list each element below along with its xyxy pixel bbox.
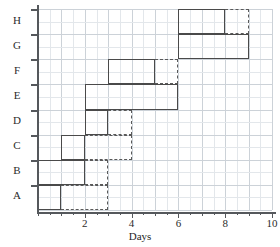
gantt-bar-e[interactable] xyxy=(85,84,179,109)
gantt-float-f[interactable] xyxy=(155,59,178,84)
gantt-bar-d[interactable] xyxy=(85,110,108,135)
gridline-horizontal xyxy=(38,122,272,123)
y-axis-tick xyxy=(31,185,38,187)
gantt-bar-c[interactable] xyxy=(61,135,84,160)
y-axis-tick xyxy=(31,9,38,11)
y-axis-tick-label-a: A xyxy=(8,189,26,201)
x-axis-tick xyxy=(61,212,62,216)
gantt-chart: Days 246810ABCDEFGH xyxy=(0,0,280,247)
x-axis-tick-label: 2 xyxy=(70,217,100,229)
x-axis-tick xyxy=(249,212,250,216)
gantt-bar-b[interactable] xyxy=(38,160,85,185)
y-axis-tick xyxy=(31,34,38,36)
gridline-vertical xyxy=(272,9,273,210)
gantt-bar-g[interactable] xyxy=(178,34,248,59)
y-axis-tick xyxy=(31,110,38,112)
x-axis-tick-minor xyxy=(237,212,238,215)
y-axis-tick-label-c: C xyxy=(8,139,26,151)
x-axis-tick-minor xyxy=(260,212,261,215)
y-axis-tick-label-h: H xyxy=(8,14,26,26)
x-axis-tick xyxy=(38,212,39,216)
y-axis-tick-label-e: E xyxy=(8,89,26,101)
x-axis-tick xyxy=(108,212,109,216)
x-axis-tick-minor xyxy=(97,212,98,215)
gantt-bar-f[interactable] xyxy=(108,59,155,84)
x-axis-tick-minor xyxy=(50,212,51,215)
gridline-horizontal xyxy=(38,110,272,111)
y-axis-tick xyxy=(31,135,38,137)
x-axis-tick xyxy=(202,212,203,216)
gantt-float-h[interactable] xyxy=(225,9,248,34)
x-axis-tick-label: 4 xyxy=(117,217,147,229)
x-axis-tick-minor xyxy=(143,212,144,215)
plot-area xyxy=(38,9,272,210)
x-axis-tick xyxy=(155,212,156,216)
x-axis-tick-minor xyxy=(167,212,168,215)
gantt-float-a[interactable] xyxy=(61,185,108,210)
gantt-bar-h[interactable] xyxy=(178,9,225,34)
y-axis-tick-label-d: D xyxy=(8,114,26,126)
x-axis-tick-label: 10 xyxy=(257,217,280,229)
gantt-float-d[interactable] xyxy=(108,110,131,135)
x-axis-tick-label: 6 xyxy=(163,217,193,229)
x-axis-tick-minor xyxy=(190,212,191,215)
x-axis-title: Days xyxy=(0,230,280,242)
gantt-float-c[interactable] xyxy=(85,135,132,160)
gridline-horizontal xyxy=(38,210,272,211)
y-axis-tick xyxy=(31,84,38,86)
gantt-float-b[interactable] xyxy=(85,160,108,185)
y-axis-tick xyxy=(31,160,38,162)
x-axis-tick-minor xyxy=(73,212,74,215)
y-axis-tick-label-b: B xyxy=(8,164,26,176)
x-axis-tick-minor xyxy=(120,212,121,215)
y-axis-tick xyxy=(31,59,38,61)
x-axis-tick-minor xyxy=(214,212,215,215)
y-axis-tick-label-g: G xyxy=(8,39,26,51)
x-axis-tick-label: 8 xyxy=(210,217,240,229)
gantt-bar-a[interactable] xyxy=(38,185,61,210)
y-axis-tick-label-f: F xyxy=(8,64,26,76)
